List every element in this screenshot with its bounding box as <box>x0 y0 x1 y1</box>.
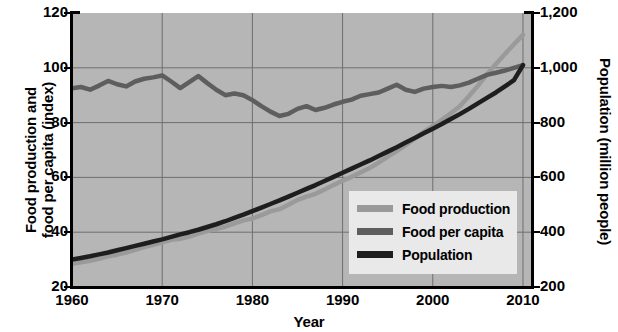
y-axis-left-spine <box>70 11 73 289</box>
legend-label-food-production: Food production <box>402 201 510 217</box>
x-axis-tick-2000: 2000 <box>398 291 468 308</box>
x-axis-tick-1990: 1990 <box>308 291 378 308</box>
y-axis-left-tick-60: 60 <box>8 167 68 184</box>
y-axis-right-tick-1000: 1,000 <box>540 58 600 75</box>
legend-label-food-per-capita: Food per capita <box>402 224 503 240</box>
legend-item-food-per-capita: Food per capita <box>357 220 509 243</box>
x-axis-tick-1980: 1980 <box>217 291 287 308</box>
plot-top-left-cap <box>70 11 80 14</box>
y-axis-right-tick-400: 400 <box>540 222 600 239</box>
chart-legend: Food production Food per capita Populati… <box>349 191 517 274</box>
x-axis-title: Year <box>0 313 618 330</box>
y-axis-right-spine <box>531 11 534 289</box>
legend-swatch-food-production <box>357 205 393 212</box>
x-axis-spine <box>70 286 534 289</box>
y-axis-right-tick-1200: 1,200 <box>540 3 600 20</box>
legend-item-population: Population <box>357 243 509 266</box>
y-axis-right-tick-600: 600 <box>540 167 600 184</box>
y-axis-left-tick-40: 40 <box>8 222 68 239</box>
chart-figure: Food production and food per capita (ind… <box>0 0 618 332</box>
legend-item-food-production: Food production <box>357 197 509 220</box>
plot-top-right-cap <box>524 11 534 14</box>
y-axis-left-tick-80: 80 <box>8 113 68 130</box>
y-axis-right-tick-800: 800 <box>540 113 600 130</box>
legend-swatch-population <box>357 251 393 258</box>
y-axis-left-tick-100: 100 <box>8 58 68 75</box>
x-axis-tick-1960: 1960 <box>37 291 107 308</box>
x-axis-tick-2010: 2010 <box>488 291 558 308</box>
x-axis-tick-1970: 1970 <box>127 291 197 308</box>
legend-swatch-food-per-capita <box>357 228 393 235</box>
y-axis-left-tick-120: 120 <box>8 3 68 20</box>
legend-label-population: Population <box>402 247 472 263</box>
